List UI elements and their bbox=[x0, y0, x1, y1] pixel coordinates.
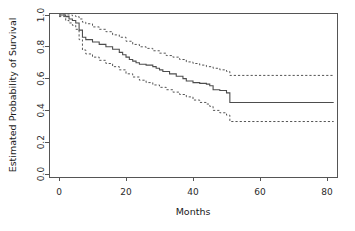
y-axis-tick-label: 0.4 bbox=[36, 103, 46, 118]
x-axis-tick-label: 0 bbox=[56, 187, 62, 197]
y-axis-title: Estimated Probability of Survival bbox=[7, 18, 18, 173]
y-axis-tick-label: 0.2 bbox=[36, 135, 46, 149]
y-axis-tick-label: 1.0 bbox=[36, 8, 46, 23]
x-axis-tick-label: 20 bbox=[120, 187, 132, 197]
y-axis-tick-label: 0.8 bbox=[36, 39, 46, 54]
kaplan-meier-figure: 0.00.20.40.60.81.0020406080MonthsEstimat… bbox=[0, 0, 355, 231]
x-axis-tick-label: 40 bbox=[187, 187, 199, 197]
plot-frame bbox=[49, 13, 337, 177]
survival-curves-group bbox=[59, 15, 334, 122]
axes-group bbox=[45, 13, 337, 181]
x-axis-tick-label: 60 bbox=[254, 187, 266, 197]
x-axis-title: Months bbox=[176, 206, 211, 217]
y-axis-tick-label: 0.6 bbox=[36, 71, 46, 86]
x-axis-tick-label: 80 bbox=[321, 187, 333, 197]
survival-curve-main bbox=[59, 15, 334, 102]
axis-labels-group: 0.00.20.40.60.81.0020406080MonthsEstimat… bbox=[7, 8, 333, 217]
confidence-curve-upper bbox=[59, 15, 334, 75]
confidence-curve-lower bbox=[59, 17, 334, 122]
y-axis-tick-label: 0.0 bbox=[36, 167, 46, 182]
survival-plot-canvas: 0.00.20.40.60.81.0020406080MonthsEstimat… bbox=[0, 0, 355, 231]
